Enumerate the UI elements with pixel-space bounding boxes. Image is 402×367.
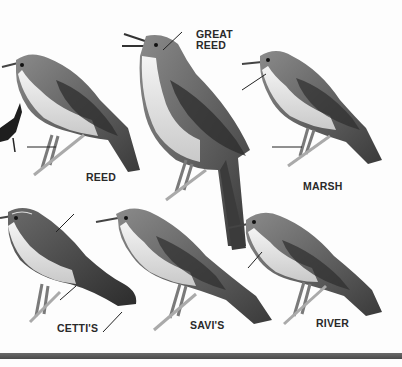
page-bottom-rule: [0, 353, 402, 359]
bird-cettis: [0, 208, 136, 332]
label-cettis: CETTI'S: [57, 323, 98, 334]
bird-savis: [96, 208, 272, 330]
bird-reed: [2, 54, 140, 175]
label-marsh: MARSH: [303, 181, 343, 192]
label-river: RIVER: [316, 318, 349, 329]
label-great-reed: GREAT REED: [196, 29, 233, 51]
bird-marsh: [242, 51, 382, 166]
fragment-dark-bird: [0, 103, 22, 152]
warbler-plate: GREAT REED REED MARSH CETTI'S SAVI'S RIV…: [0, 0, 402, 367]
label-great-reed-line2: REED: [196, 40, 233, 51]
label-reed: REED: [86, 172, 116, 183]
label-savis: SAVI'S: [190, 320, 224, 331]
